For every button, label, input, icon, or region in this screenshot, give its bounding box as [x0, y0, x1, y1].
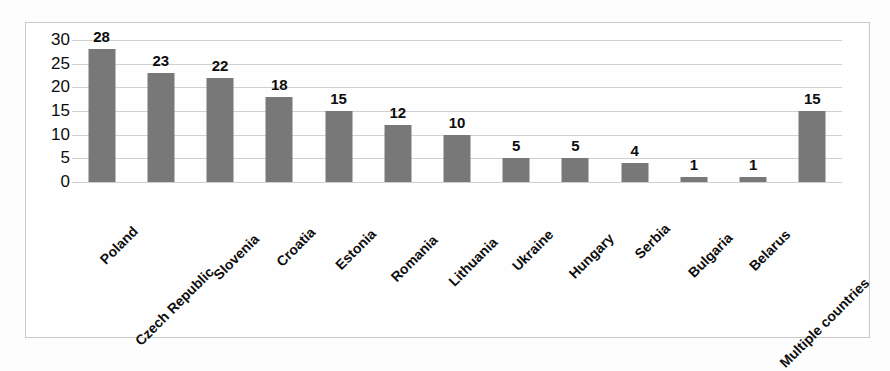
x-axis: PolandCzech RepublicSloveniaCroatiaEston…	[72, 182, 842, 322]
bar	[503, 158, 530, 182]
x-tick-label: Serbia	[631, 220, 673, 262]
bar-slot: 5	[487, 40, 546, 182]
bar	[88, 49, 115, 182]
bar-slot: 10	[427, 40, 486, 182]
bar-value-label: 5	[571, 138, 579, 153]
bar-value-label: 22	[212, 58, 229, 73]
x-tick-label: Hungary	[566, 230, 617, 281]
y-tick-label-5: 5	[26, 150, 70, 165]
bar-value-label: 15	[804, 91, 821, 106]
x-tick-label: Slovenia	[210, 231, 262, 283]
x-tick-label: Croatia	[273, 224, 318, 269]
y-axis: 051015202530	[26, 32, 70, 190]
bar-slot: 18	[250, 40, 309, 182]
y-tick-label-15: 15	[26, 103, 70, 118]
bar	[207, 78, 234, 182]
bar-value-label: 23	[152, 53, 169, 68]
bar-value-label: 10	[449, 115, 466, 130]
y-tick-label-20: 20	[26, 79, 70, 94]
bar-value-label: 18	[271, 77, 288, 92]
bar-slot: 5	[546, 40, 605, 182]
bar-value-label: 12	[389, 105, 406, 120]
bar	[266, 97, 293, 182]
x-tick-label: Romania	[387, 232, 440, 285]
bar	[147, 73, 174, 182]
bar-slot: 12	[368, 40, 427, 182]
bar-slot: 4	[605, 40, 664, 182]
bar-slot: 22	[190, 40, 249, 182]
y-tick-label-30: 30	[26, 32, 70, 47]
y-tick-label-0: 0	[26, 174, 70, 189]
bar-slot: 1	[724, 40, 783, 182]
bar-slot: 1	[664, 40, 723, 182]
bar	[562, 158, 589, 182]
bar	[621, 163, 648, 182]
bar-value-label: 4	[631, 143, 639, 158]
y-tick-label-10: 10	[26, 127, 70, 142]
bar-value-label: 1	[749, 157, 757, 172]
bar-slot: 28	[72, 40, 131, 182]
bars-layer: 282322181512105541115	[72, 40, 842, 182]
x-tick-label: Bulgaria	[685, 230, 736, 281]
x-tick-label: Ukraine	[509, 226, 557, 274]
bar-value-label: 15	[330, 91, 347, 106]
x-tick-label: Poland	[96, 223, 140, 267]
bar	[384, 125, 411, 182]
bar-value-label: 5	[512, 138, 520, 153]
x-tick-label: Belarus	[746, 226, 794, 274]
bar	[325, 111, 352, 182]
bar-value-label: 1	[690, 157, 698, 172]
x-tick-label: Lithuania	[445, 234, 500, 289]
bar-slot: 15	[783, 40, 842, 182]
bar-slot: 15	[309, 40, 368, 182]
bar-slot: 23	[131, 40, 190, 182]
bar-value-label: 28	[93, 29, 110, 44]
bar	[799, 111, 826, 182]
x-tick-label: Estonia	[332, 226, 379, 273]
y-tick-label-25: 25	[26, 56, 70, 71]
bar	[443, 135, 470, 182]
